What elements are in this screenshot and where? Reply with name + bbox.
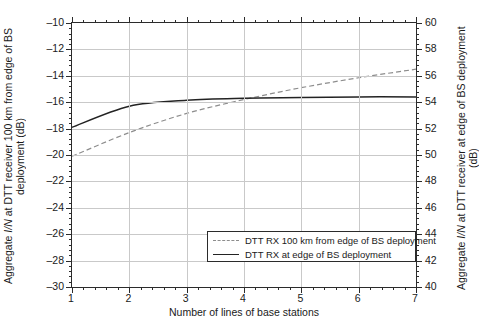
y-axis-left-minor-tick [69,86,72,87]
y-axis-right-minor-tick [416,266,419,267]
y-axis-left-tick-labels: –10–12–14–16–18–20–22–24–26–28–30 [28,22,64,288]
y-axis-right-minor-tick [416,65,419,66]
y-axis-left-minor-tick [69,197,72,198]
x-axis-top-minor-tick [324,20,325,23]
x-axis-top-minor-tick [175,20,176,23]
y-axis-right-minor-tick [416,81,419,82]
y-axis-left-title-post: at DTT receiver 100 km from edge of BS d… [2,28,26,219]
y-axis-right-minor-tick [416,192,419,193]
x-axis-top-tick [301,17,302,23]
x-axis-top-minor-tick [141,20,142,23]
y-axis-right-minor-tick [416,39,419,40]
y-axis-right-tick-labels: 6058565452504846444240 [425,22,451,288]
y-axis-left-minor-tick [69,276,72,277]
y-axis-left-tick-label: –10 [46,17,64,27]
y-axis-right-minor-tick [416,224,419,225]
y-axis-right-tick-label: 48 [425,175,437,185]
y-axis-left-minor-tick [69,229,72,230]
x-axis-top-minor-tick [95,20,96,23]
x-axis-minor-tick [405,287,406,290]
y-axis-right-minor-tick [416,60,419,61]
x-axis-top-minor-tick [405,20,406,23]
x-axis-top-tick [187,17,188,23]
y-axis-left-minor-tick [69,282,72,283]
y-axis-left-minor-tick [69,44,72,45]
y-axis-left-tick [66,23,72,24]
x-axis-tick [129,287,130,293]
y-axis-left-minor-tick [69,150,72,151]
x-axis-minor-tick [118,287,119,290]
x-axis-top-minor-tick [210,20,211,23]
x-axis-minor-tick [152,287,153,290]
legend-label-1: DTT RX at edge of BS deployment [245,250,391,260]
y-axis-left-minor-tick [69,171,72,172]
y-axis-left-minor-tick [69,60,72,61]
y-axis-right-minor-tick [416,213,419,214]
legend-label-0: DTT RX 100 km from edge of BS deployment [245,236,436,246]
x-axis-minor-tick [336,287,337,290]
y-axis-right-minor-tick [416,282,419,283]
y-axis-right-minor-tick [416,97,419,98]
y-axis-left-minor-tick [69,81,72,82]
y-axis-left-minor-tick [69,203,72,204]
y-axis-right-minor-tick [416,107,419,108]
x-axis-top-minor-tick [118,20,119,23]
y-axis-left-title-pre: Aggregate [2,233,14,284]
legend-swatch-solid-icon [213,252,239,258]
y-axis-right-tick-label: 52 [425,123,437,133]
y-axis-right-tick [416,129,422,130]
y-axis-right-minor-tick [416,44,419,45]
y-axis-right-tick [416,261,422,262]
y-axis-right-minor-tick [416,250,419,251]
x-axis-minor-tick [393,287,394,290]
y-axis-right-tick-label: 46 [425,202,437,212]
y-axis-right-tick [416,181,422,182]
y-axis-right-minor-tick [416,144,419,145]
y-axis-right-minor-tick [416,139,419,140]
x-axis-tick-label: 3 [174,293,198,303]
y-axis-left-tick-label: –16 [46,96,64,106]
x-axis-minor-tick [95,287,96,290]
y-axis-right-minor-tick [416,28,419,29]
y-axis-right-tick [416,49,422,50]
y-axis-right-tick [416,155,422,156]
y-axis-left-minor-tick [69,250,72,251]
y-axis-right-tick-label: 60 [425,17,437,27]
x-axis-minor-tick [198,287,199,290]
x-axis-minor-tick [164,287,165,290]
x-axis-minor-tick [175,287,176,290]
y-axis-right-minor-tick [416,229,419,230]
x-axis-minor-tick [370,287,371,290]
gridline-vertical [187,23,188,287]
legend: DTT RX 100 km from edge of BS deployment… [207,231,416,262]
y-axis-left-minor-tick [69,160,72,161]
y-axis-left-minor-tick [69,28,72,29]
legend-item-1: DTT RX at edge of BS deployment [213,249,415,261]
y-axis-left-minor-tick [69,239,72,240]
y-axis-left-tick [66,181,72,182]
x-axis-top-tick [72,17,73,23]
y-axis-right-minor-tick [416,171,419,172]
y-axis-right-tick-label: 50 [425,149,437,159]
x-axis-tick-label: 5 [288,293,312,303]
y-axis-right-minor-tick [416,92,419,93]
x-axis-top-minor-tick [233,20,234,23]
x-axis-minor-tick [290,287,291,290]
y-axis-left-minor-tick [69,176,72,177]
y-axis-left-minor-tick [69,224,72,225]
x-axis-tick [72,287,73,293]
y-axis-left-minor-tick [69,245,72,246]
x-axis-minor-tick [267,287,268,290]
y-axis-right-title-post: at DTT receiver at edge of BS deployment… [455,26,479,225]
legend-item-0: DTT RX 100 km from edge of BS deployment [213,235,415,247]
y-axis-right-minor-tick [416,276,419,277]
x-axis-top-tick [244,17,245,23]
y-axis-left-minor-tick [69,266,72,267]
y-axis-left-minor-tick [69,255,72,256]
x-axis-top-minor-tick [370,20,371,23]
y-axis-left-minor-tick [69,107,72,108]
y-axis-left-minor-tick [69,39,72,40]
y-axis-right-minor-tick [416,255,419,256]
y-axis-right-minor-tick [416,34,419,35]
x-axis-top-minor-tick [198,20,199,23]
